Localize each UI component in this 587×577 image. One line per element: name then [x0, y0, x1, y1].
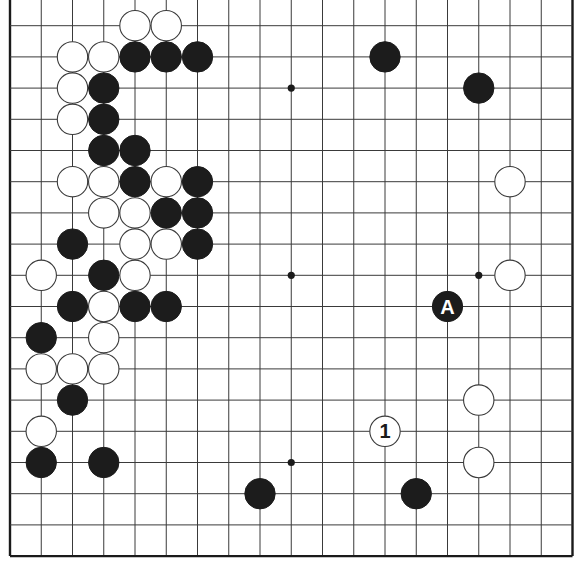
white-stone — [120, 11, 150, 41]
black-stone — [89, 260, 119, 290]
black-stone — [120, 291, 150, 321]
star-point — [288, 85, 295, 92]
black-stone — [26, 323, 56, 353]
white-stone — [89, 198, 119, 228]
black-stone — [151, 198, 181, 228]
black-stone — [26, 447, 56, 477]
stones: A1 — [26, 11, 525, 509]
white-stone — [495, 260, 525, 290]
white-stone — [26, 416, 56, 446]
white-stone — [151, 11, 181, 41]
black-stone — [401, 479, 431, 509]
black-stone — [182, 42, 212, 72]
black-stone — [57, 385, 87, 415]
black-stone — [89, 135, 119, 165]
black-stone — [89, 73, 119, 103]
star-point — [288, 272, 295, 279]
white-stone — [89, 354, 119, 384]
white-stone — [57, 354, 87, 384]
white-stone — [57, 42, 87, 72]
black-stone — [120, 42, 150, 72]
star-point — [288, 459, 295, 466]
white-stone — [89, 291, 119, 321]
black-stone — [464, 73, 494, 103]
black-stone — [245, 479, 275, 509]
black-stone — [57, 291, 87, 321]
stone-label: 1 — [379, 420, 390, 442]
white-stone — [151, 229, 181, 259]
black-stone — [370, 42, 400, 72]
white-stone — [151, 167, 181, 197]
stone-label: A — [440, 296, 454, 318]
black-stone-a: A — [432, 291, 462, 321]
black-stone — [57, 229, 87, 259]
black-stone — [89, 447, 119, 477]
white-stone — [89, 167, 119, 197]
black-stone — [182, 167, 212, 197]
black-stone — [89, 104, 119, 134]
white-stone — [57, 167, 87, 197]
black-stone — [182, 229, 212, 259]
white-stone — [26, 260, 56, 290]
white-stone — [120, 229, 150, 259]
white-stone — [120, 198, 150, 228]
black-stone — [120, 135, 150, 165]
white-stone — [89, 323, 119, 353]
white-stone — [26, 354, 56, 384]
white-stone — [57, 104, 87, 134]
white-stone — [495, 167, 525, 197]
black-stone — [151, 42, 181, 72]
white-stone — [89, 42, 119, 72]
white-stone — [464, 447, 494, 477]
white-stone-1: 1 — [370, 416, 400, 446]
white-stone — [57, 73, 87, 103]
white-stone — [120, 260, 150, 290]
black-stone — [151, 291, 181, 321]
star-point — [475, 272, 482, 279]
black-stone — [120, 167, 150, 197]
black-stone — [182, 198, 212, 228]
go-board: A1 — [0, 0, 587, 577]
white-stone — [464, 385, 494, 415]
